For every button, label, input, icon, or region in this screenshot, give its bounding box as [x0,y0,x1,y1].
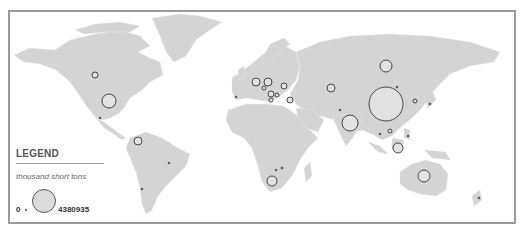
canadian-arctic [75,22,140,34]
bubble-vietnam[interactable] [388,129,392,133]
philippines [404,128,410,140]
bubble-indonesia[interactable] [393,143,403,153]
new-guinea [424,150,450,160]
bubble-mozambique[interactable] [281,167,283,169]
bubble-australia[interactable] [418,170,430,182]
bubble-ukraine[interactable] [281,83,287,89]
legend-max-label: 4380935 [58,205,89,214]
bubble-mexico[interactable] [99,117,101,119]
legend-scale: 0 4380935 [16,185,116,215]
bubble-china[interactable] [369,87,403,121]
legend-min-circle [25,209,27,211]
bubble-brazil[interactable] [168,162,170,164]
bubble-bulgaria[interactable] [275,93,279,97]
bubble-new-zealand[interactable] [478,197,480,199]
north-america [14,30,163,120]
bubble-germany[interactable] [252,78,260,86]
legend-max-circle [32,189,56,213]
bubble-zimbabwe[interactable] [275,169,277,171]
bubble-colombia[interactable] [134,137,142,145]
bubble-canada[interactable] [92,72,98,78]
bubble-mongolia[interactable] [396,86,398,88]
bubble-turkey[interactable] [287,97,293,103]
bubble-india[interactable] [342,115,358,131]
bubble-philippines[interactable] [407,135,409,137]
bubble-south-africa[interactable] [267,176,277,186]
bubble-czechia[interactable] [262,86,266,90]
bubble-spain[interactable] [235,96,237,98]
bubble-russia-kuzbass-[interactable] [380,60,392,72]
new-zealand [472,190,482,206]
bubble-serbia[interactable] [268,91,274,97]
bubble-thailand[interactable] [379,133,381,135]
bubble-poland[interactable] [264,78,272,86]
legend-min-label: 0 [16,205,20,214]
bubble-chile[interactable] [141,188,143,190]
legend-unit: thousand short tons [16,172,116,181]
bubble-usa[interactable] [102,94,116,108]
legend-title: LEGEND [16,148,116,159]
central-america [96,118,126,140]
bubble-korea[interactable] [413,99,417,103]
madagascar [304,162,312,182]
greenland [152,14,222,62]
legend: LEGEND thousand short tons 0 4380935 [16,148,116,215]
bubble-pakistan[interactable] [339,109,341,111]
bubble-kazakhstan[interactable] [327,84,335,92]
bubble-japan[interactable] [429,103,431,105]
sumatra [368,142,388,154]
bubble-greece[interactable] [269,98,273,102]
legend-divider [16,163,104,164]
